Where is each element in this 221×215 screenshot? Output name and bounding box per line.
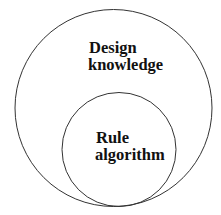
nested-circle-diagram: Design knowledge Rule algorithm <box>0 0 221 215</box>
inner-label-line-2: algorithm <box>95 145 165 164</box>
outer-label-line-2: knowledge <box>88 55 163 74</box>
